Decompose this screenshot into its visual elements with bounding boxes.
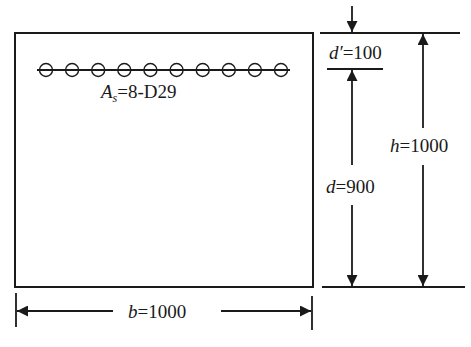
h-value: =1000 [400,135,449,156]
b-value: =1000 [138,301,187,322]
beam-section-diagram [0,0,471,347]
section-outline [15,33,313,287]
h-symbol: h [390,135,400,156]
height-label: h=1000 [390,136,448,155]
d-value: =900 [336,176,375,197]
as-value: =8-D29 [117,81,176,102]
reinforcement-label: As=8-D29 [101,82,177,104]
cover-symbol: d [329,42,339,63]
rebar-layer [37,64,290,77]
width-label: b=1000 [128,302,186,321]
effective-depth-label: d=900 [326,177,375,196]
cover-label: d′=100 [329,43,382,62]
as-symbol: A [101,81,113,102]
cover-value: =100 [343,42,382,63]
d-symbol: d [326,176,336,197]
b-symbol: b [128,301,138,322]
